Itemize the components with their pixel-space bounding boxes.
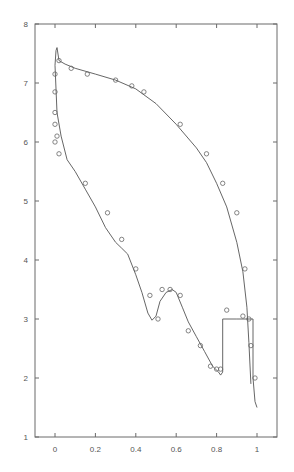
x-tick-label: 0.8 bbox=[211, 445, 223, 454]
data-point-marker bbox=[178, 293, 182, 297]
x-tick-label: 0.4 bbox=[130, 445, 142, 454]
y-tick-label: 2 bbox=[24, 374, 29, 383]
y-tick-label: 8 bbox=[24, 20, 29, 29]
data-point-marker bbox=[178, 122, 182, 126]
series-lines bbox=[55, 48, 257, 408]
data-point-marker bbox=[53, 122, 57, 126]
y-tick-label: 3 bbox=[24, 315, 29, 324]
x-axis-ticks: 00.20.40.60.81 bbox=[53, 24, 260, 454]
data-point-marker bbox=[105, 211, 109, 215]
data-point-marker bbox=[186, 329, 190, 333]
data-point-marker bbox=[243, 267, 247, 271]
data-point-marker bbox=[253, 376, 257, 380]
series-line bbox=[55, 48, 251, 384]
data-point-marker bbox=[142, 90, 146, 94]
series-line bbox=[55, 65, 257, 407]
data-point-marker bbox=[57, 152, 61, 156]
line-chart: 00.20.40.60.81 12345678 bbox=[0, 0, 294, 472]
data-point-marker bbox=[53, 110, 57, 114]
data-point-marker bbox=[235, 211, 239, 215]
x-tick-label: 0 bbox=[53, 445, 58, 454]
data-point-marker bbox=[208, 364, 212, 368]
y-tick-label: 4 bbox=[24, 256, 29, 265]
data-point-marker bbox=[120, 237, 124, 241]
y-tick-label: 1 bbox=[24, 433, 29, 442]
plot-frame bbox=[35, 24, 277, 437]
y-tick-label: 6 bbox=[24, 138, 29, 147]
data-point-marker bbox=[85, 72, 89, 76]
y-axis-ticks: 12345678 bbox=[24, 20, 277, 442]
data-point-marker bbox=[83, 181, 87, 185]
data-point-marker bbox=[156, 317, 160, 321]
data-point-marker bbox=[160, 287, 164, 291]
data-point-marker bbox=[55, 134, 59, 138]
y-tick-label: 5 bbox=[24, 197, 29, 206]
y-tick-label: 7 bbox=[24, 79, 29, 88]
x-tick-label: 0.6 bbox=[171, 445, 183, 454]
series-markers bbox=[53, 58, 257, 380]
data-point-marker bbox=[241, 314, 245, 318]
data-point-marker bbox=[148, 293, 152, 297]
data-point-marker bbox=[53, 140, 57, 144]
x-tick-label: 1 bbox=[255, 445, 260, 454]
data-point-marker bbox=[204, 152, 208, 156]
data-point-marker bbox=[134, 267, 138, 271]
data-point-marker bbox=[221, 181, 225, 185]
data-point-marker bbox=[225, 308, 229, 312]
x-tick-label: 0.2 bbox=[90, 445, 102, 454]
